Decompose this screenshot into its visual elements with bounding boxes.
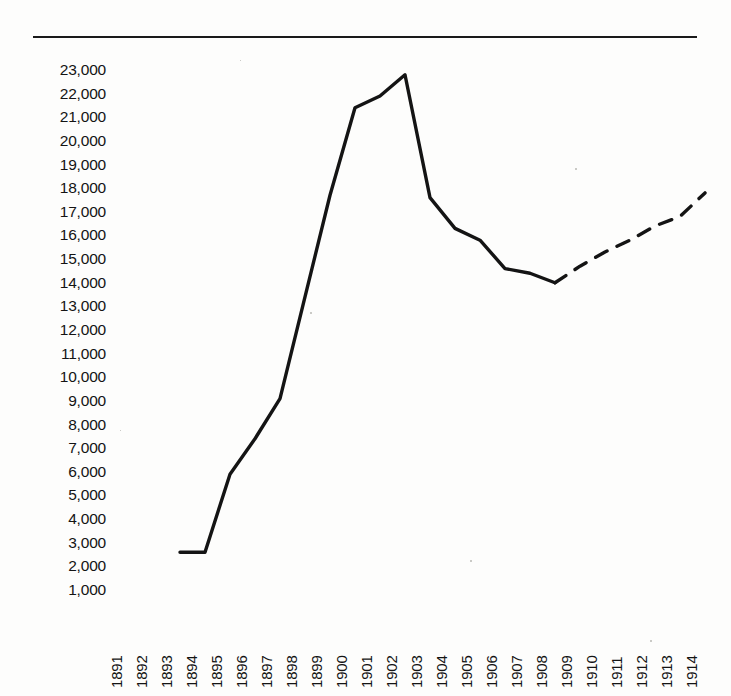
series-line-actual: [180, 75, 555, 552]
chart-figure: 23,00022,00021,00020,00019,00018,00017,0…: [0, 0, 731, 696]
chart-plot-lines: [0, 0, 731, 696]
scan-artifact: [120, 430, 121, 431]
scan-artifact: [470, 560, 472, 562]
scan-artifact: [650, 640, 652, 642]
scan-artifact: [310, 312, 312, 314]
scan-artifact: [575, 168, 577, 170]
series-line-projected: [555, 193, 705, 283]
scan-artifact: [240, 60, 241, 61]
